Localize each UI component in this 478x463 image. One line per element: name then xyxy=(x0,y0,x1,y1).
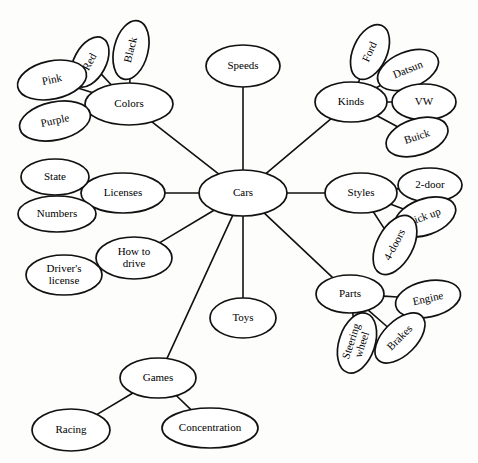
node-racing[interactable]: Racing xyxy=(32,409,110,451)
nodes-layer: CarsSpeedsColorsRedBlackPinkPurpleLicens… xyxy=(14,17,464,451)
node-shape-styles xyxy=(325,173,397,213)
node-state[interactable]: State xyxy=(21,159,89,195)
node-cars[interactable]: Cars xyxy=(199,170,287,216)
node-shape-colors xyxy=(85,83,173,125)
node-concentration[interactable]: Concentration xyxy=(162,408,258,448)
node-buick[interactable]: Buick xyxy=(381,110,453,164)
node-shape-how-to-drive xyxy=(96,237,172,279)
node-black[interactable]: Black xyxy=(107,17,155,83)
edge-games-to-racing xyxy=(97,393,133,414)
node-shape-black xyxy=(107,17,155,83)
node-shape-buick xyxy=(381,110,453,164)
node-drivers-license[interactable]: Driver'slicense xyxy=(26,255,102,295)
edge-styles-to-pick-up xyxy=(391,204,404,209)
node-shape-games xyxy=(120,358,196,398)
edge-cars-to-kinds xyxy=(266,119,331,174)
node-shape-parts xyxy=(316,275,384,313)
node-shape-drivers-license xyxy=(26,255,102,295)
node-speeds[interactable]: Speeds xyxy=(206,45,280,87)
node-shape-toys xyxy=(210,298,276,338)
edge-colors-to-pink xyxy=(79,88,93,92)
node-colors[interactable]: Colors xyxy=(85,83,173,125)
node-shape-state xyxy=(21,159,89,195)
node-vw[interactable]: VW xyxy=(392,84,456,120)
node-shape-steering-wheel xyxy=(330,308,383,378)
node-shape-kinds xyxy=(315,82,387,122)
edge-colors-to-red xyxy=(101,74,111,85)
node-parts[interactable]: Parts xyxy=(316,275,384,313)
edge-cars-to-parts xyxy=(264,213,332,278)
node-shape-concentration xyxy=(162,408,258,448)
edge-styles-to-4-doors xyxy=(373,212,384,229)
node-shape-vw xyxy=(392,84,456,120)
node-how-to-drive[interactable]: How todrive xyxy=(96,237,172,279)
node-kinds[interactable]: Kinds xyxy=(315,82,387,122)
node-shape-speeds xyxy=(206,45,280,87)
edge-cars-to-colors xyxy=(152,122,219,174)
edge-cars-to-games xyxy=(167,215,233,358)
node-numbers[interactable]: Numbers xyxy=(18,196,96,232)
mindmap-canvas: CarsSpeedsColorsRedBlackPinkPurpleLicens… xyxy=(0,0,478,463)
edge-parts-to-engine xyxy=(384,296,398,297)
node-shape-cars xyxy=(199,170,287,216)
edge-cars-to-how-to-drive xyxy=(160,210,214,242)
node-shape-purple xyxy=(16,95,94,147)
mindmap-diagram: CarsSpeedsColorsRedBlackPinkPurpleLicens… xyxy=(0,0,478,463)
node-shape-numbers xyxy=(18,196,96,232)
node-steering-wheel[interactable]: Steeringwheel xyxy=(330,308,383,378)
node-purple[interactable]: Purple xyxy=(16,95,94,147)
node-toys[interactable]: Toys xyxy=(210,298,276,338)
node-shape-racing xyxy=(32,409,110,451)
node-styles[interactable]: Styles xyxy=(325,173,397,213)
node-games[interactable]: Games xyxy=(120,358,196,398)
edge-games-to-concentration xyxy=(176,396,191,410)
edge-kinds-to-buick xyxy=(377,116,398,127)
